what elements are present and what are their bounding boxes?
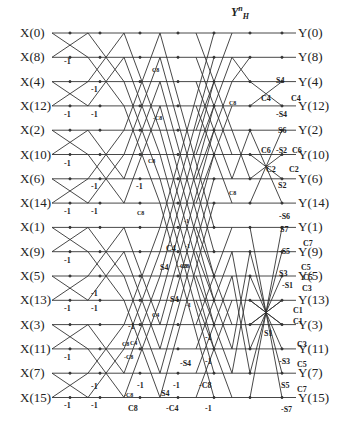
coefficient-label: -S6 xyxy=(279,213,290,221)
coefficient-label: -1 xyxy=(91,402,98,410)
input-label: X(15) xyxy=(20,391,51,404)
coefficient-label: -S1 xyxy=(282,282,293,290)
coefficient-label: C3 xyxy=(297,341,307,349)
coefficient-label: -1 xyxy=(205,334,212,342)
coefficient-label: -1 xyxy=(91,208,98,216)
output-label: Y(0) xyxy=(298,26,323,39)
coefficient-label: C7 xyxy=(303,240,313,248)
coefficient-label: S3 xyxy=(279,270,287,278)
coefficient-label: -1 xyxy=(91,111,98,119)
coefficient-label: -1 xyxy=(91,290,98,298)
coefficient-label: C5 xyxy=(301,264,311,272)
coefficient-label: -S4 xyxy=(276,111,287,119)
input-label: X(13) xyxy=(20,293,51,306)
coefficient-label: C1 xyxy=(293,318,303,326)
coefficient-label: C4 xyxy=(291,95,301,103)
input-label: X(4) xyxy=(20,75,45,88)
input-label: X(5) xyxy=(20,269,45,282)
coefficient-label: -1 xyxy=(128,323,135,331)
coefficient-label: -1 xyxy=(91,86,98,94)
coefficient-label: C6 xyxy=(261,147,271,155)
input-label: X(3) xyxy=(20,318,45,331)
coefficient-label: C8 xyxy=(137,210,144,216)
output-label: Y(12) xyxy=(298,99,329,112)
coefficient-label: -S4 xyxy=(180,360,191,368)
coefficient-label: C6 xyxy=(292,147,302,155)
output-label: Y(10) xyxy=(298,148,329,161)
input-label: X(7) xyxy=(20,366,45,379)
coefficient-label: C7 xyxy=(297,386,307,394)
coefficient-label: -1 xyxy=(137,382,144,390)
coefficient-label: -C8 xyxy=(124,354,133,360)
coefficient-label: C4 xyxy=(261,95,271,103)
coefficient-label: -1 xyxy=(186,302,191,308)
coefficient-label: S6 xyxy=(278,127,286,135)
output-label: Y(1) xyxy=(298,220,323,233)
coefficient-label: S4 xyxy=(170,296,178,304)
coefficient-label: -S5 xyxy=(279,248,290,256)
input-label: X(6) xyxy=(20,172,45,185)
output-label: Y(2) xyxy=(298,123,323,136)
output-label: Y(14) xyxy=(298,196,329,209)
coefficient-label: C5 xyxy=(303,274,313,282)
coefficient-label: -C8 xyxy=(180,263,189,269)
input-label: X(8) xyxy=(20,50,45,63)
coefficient-label: -C8 xyxy=(199,382,211,390)
coefficient-label: -1 xyxy=(184,218,189,224)
coefficient-label: -1 xyxy=(64,354,71,362)
coefficient-label: -1 xyxy=(64,58,71,66)
coefficient-label: S5 xyxy=(281,382,289,390)
output-label: Y(4) xyxy=(298,75,323,88)
input-label: X(0) xyxy=(20,26,45,39)
input-label: X(1) xyxy=(20,220,45,233)
coefficient-label: -C8 xyxy=(153,115,162,121)
coefficient-label: C4 xyxy=(130,340,137,346)
coefficient-label: C8 xyxy=(148,158,155,164)
coefficient-label: -S7 xyxy=(281,406,292,414)
coefficient-label: S1 xyxy=(264,330,272,338)
input-label: X(12) xyxy=(20,99,51,112)
coefficient-label: -1 xyxy=(205,358,212,366)
coefficient-label: -1 xyxy=(91,383,98,391)
coefficient-label: S4 xyxy=(161,390,169,398)
coefficient-label: -1 xyxy=(64,305,71,313)
coefficient-label: C2 xyxy=(289,166,299,174)
coefficient-label: -C8 xyxy=(124,392,133,398)
output-label: Y(13) xyxy=(298,293,329,306)
input-label: X(2) xyxy=(20,123,45,136)
coefficient-label: -1 xyxy=(91,305,98,313)
coefficient-label: -S3 xyxy=(279,358,290,366)
input-label: X(10) xyxy=(20,148,51,161)
coefficient-label: C8 xyxy=(152,67,159,73)
coefficient-label: C4 xyxy=(152,312,159,318)
coefficient-label: C2 xyxy=(266,166,276,174)
output-label: Y(6) xyxy=(298,172,323,185)
coefficient-label: -1 xyxy=(91,183,98,191)
coefficient-label: C8 xyxy=(229,190,236,196)
coefficient-label: -1 xyxy=(205,405,212,413)
input-label: X(11) xyxy=(20,342,51,355)
input-label: X(9) xyxy=(20,245,45,258)
output-label: Y(8) xyxy=(298,50,323,63)
input-label: X(14) xyxy=(20,196,51,209)
coefficient-label: C4 xyxy=(166,245,176,253)
coefficient-label: -1 xyxy=(185,243,190,249)
coefficient-label: S4 xyxy=(160,264,168,272)
coefficient-label: S2 xyxy=(278,182,286,190)
coefficient-label: C1 xyxy=(293,307,303,315)
coefficient-label: C3 xyxy=(302,285,312,293)
coefficient-label: S7 xyxy=(280,226,288,234)
coefficient-label: -1 xyxy=(64,111,71,119)
coefficient-label: C8 xyxy=(128,405,138,413)
coefficient-label: S4 xyxy=(276,77,284,85)
coefficient-label: C5 xyxy=(297,361,307,369)
diagram-title: YnH xyxy=(231,4,249,21)
coefficient-label: -1 xyxy=(64,208,71,216)
coefficient-label: -S2 xyxy=(276,147,287,155)
coefficient-label: -1 xyxy=(136,183,143,191)
coefficient-label: -1 xyxy=(64,257,71,265)
coefficient-label: C8 xyxy=(122,341,129,347)
coefficient-label: -C4 xyxy=(166,405,178,413)
coefficient-label: -1 xyxy=(64,402,71,410)
coefficient-label: C8 xyxy=(229,100,236,106)
